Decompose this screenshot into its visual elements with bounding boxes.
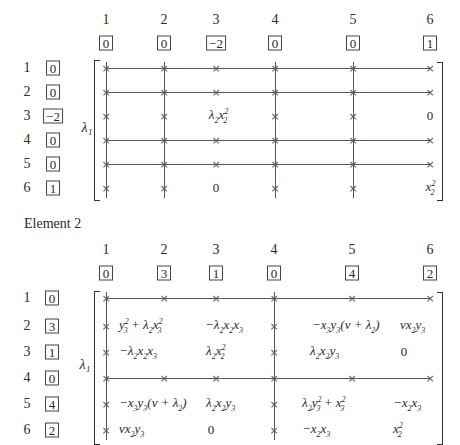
- m1-col-box-1: 0: [99, 36, 113, 51]
- m2-row-label-3: 3: [24, 344, 31, 360]
- m2-entry-r2c6: vx2y3: [400, 317, 425, 335]
- m2-hline-row-4: [106, 378, 430, 379]
- m1-cross-marker-icon: ×: [348, 183, 357, 194]
- m1-col-label-4: 4: [272, 12, 279, 28]
- m1-col-label-3: 3: [213, 12, 220, 28]
- m1-col-label-1: 1: [103, 12, 110, 28]
- m2-col-box-4: 0: [267, 266, 281, 281]
- m2-entry-r6c2: vx2y3: [119, 421, 144, 439]
- m2-cross-marker-icon: ×: [101, 425, 110, 436]
- m1-cross-marker-icon: ×: [348, 111, 357, 122]
- m2-col-label-2: 2: [161, 242, 168, 258]
- m1-row-box-1: 0: [46, 61, 60, 76]
- m2-cross-marker-icon: ×: [269, 321, 278, 332]
- m2-entry-r3c5: λ2x2y3: [310, 343, 339, 361]
- m2-col-label-4: 4: [271, 242, 278, 258]
- m1-left-bracket: [94, 60, 100, 201]
- m1-row-label-1: 1: [24, 60, 31, 76]
- m1-cross-marker-icon: ×: [159, 135, 168, 146]
- m1-cross-marker-icon: ×: [425, 135, 434, 146]
- m1-col-label-2: 2: [161, 12, 168, 28]
- m1-cross-marker-icon: ×: [101, 87, 110, 98]
- m1-col-box-3: −2: [206, 36, 226, 51]
- m1-cross-marker-icon: ×: [425, 63, 434, 74]
- m1-row-box-3: −2: [43, 109, 63, 124]
- m1-row-box-6: 1: [46, 181, 60, 196]
- m1-entry-r3c3: λ2x22: [209, 107, 227, 125]
- m2-col-box-5: 4: [345, 266, 359, 281]
- m1-cross-marker-icon: ×: [101, 111, 110, 122]
- m1-cross-marker-icon: ×: [159, 63, 168, 74]
- m1-vline-col-5: [353, 62, 354, 198]
- m1-hline-row-2: [106, 92, 430, 93]
- m2-cross-marker-icon: ×: [425, 293, 434, 304]
- m2-col-box-6: 2: [423, 266, 437, 281]
- m1-cross-marker-icon: ×: [211, 63, 220, 74]
- m2-entry-r5c2: −x3y3(v + λ2): [119, 395, 187, 413]
- m2-entry-r5c3: λ2x2y3: [206, 395, 235, 413]
- m1-row-label-6: 6: [24, 180, 31, 196]
- m1-col-box-5: 0: [346, 36, 360, 51]
- m2-cross-marker-icon: ×: [211, 293, 220, 304]
- m2-col-label-5: 5: [349, 242, 356, 258]
- m2-entry-r5c5: λ2y23 + x23: [302, 395, 344, 413]
- m2-cross-marker-icon: ×: [347, 373, 356, 384]
- m1-cross-marker-icon: ×: [348, 135, 357, 146]
- m1-cross-marker-icon: ×: [425, 87, 434, 98]
- m2-entry-r6c6: x22: [393, 421, 402, 439]
- m2-col-box-1: 0: [99, 266, 113, 281]
- m2-entry-r3c2: −λ2x2x3: [119, 343, 157, 361]
- m1-cross-marker-icon: ×: [159, 87, 168, 98]
- m1-row-box-4: 0: [46, 133, 60, 148]
- m1-cross-marker-icon: ×: [101, 159, 110, 170]
- m1-cross-marker-icon: ×: [211, 159, 220, 170]
- m2-entry-r6c3: 0: [208, 422, 215, 438]
- m1-row-label-4: 4: [24, 132, 31, 148]
- m2-right-bracket: [437, 292, 443, 445]
- m1-cross-marker-icon: ×: [159, 111, 168, 122]
- m2-vline-col-1: [106, 292, 107, 440]
- m1-cross-marker-icon: ×: [270, 135, 279, 146]
- m2-row-label-4: 4: [24, 370, 31, 386]
- m1-cross-marker-icon: ×: [211, 87, 220, 98]
- m2-col-label-3: 3: [213, 242, 220, 258]
- m2-prefactor-lambda1: λ₁: [80, 357, 91, 373]
- m1-col-box-4: 0: [268, 36, 282, 51]
- m2-cross-marker-icon: ×: [101, 321, 110, 332]
- m2-entry-r6c5: −x2x3: [302, 421, 330, 439]
- m2-cross-marker-icon: ×: [269, 373, 278, 384]
- m2-cross-marker-icon: ×: [269, 347, 278, 358]
- m2-col-box-2: 3: [157, 266, 171, 281]
- m1-cross-marker-icon: ×: [211, 135, 220, 146]
- m1-cross-marker-icon: ×: [159, 183, 168, 194]
- m2-entry-r3c6: 0: [401, 344, 408, 360]
- m1-cross-marker-icon: ×: [348, 159, 357, 170]
- m2-left-bracket: [94, 291, 100, 445]
- m1-vline-col-4: [275, 62, 276, 198]
- m1-row-label-3: 3: [24, 108, 31, 124]
- m1-right-bracket: [437, 62, 443, 201]
- m2-vline-col-4: [274, 292, 275, 440]
- m1-col-label-5: 5: [350, 12, 357, 28]
- m2-cross-marker-icon: ×: [269, 399, 278, 410]
- m2-row-box-1: 0: [45, 291, 59, 306]
- m1-cross-marker-icon: ×: [270, 111, 279, 122]
- m2-entry-r2c3: −λ2x2x3: [205, 317, 243, 335]
- m2-cross-marker-icon: ×: [159, 293, 168, 304]
- m1-cross-marker-icon: ×: [425, 159, 434, 170]
- m1-cross-marker-icon: ×: [101, 63, 110, 74]
- m1-entry-r6c3: 0: [213, 180, 220, 196]
- m2-row-box-5: 4: [45, 397, 59, 412]
- m1-vline-col-1: [106, 62, 107, 198]
- m1-cross-marker-icon: ×: [270, 183, 279, 194]
- element-2-caption: Element 2: [24, 216, 81, 232]
- m1-col-box-2: 0: [157, 36, 171, 51]
- m1-cross-marker-icon: ×: [270, 159, 279, 170]
- m2-cross-marker-icon: ×: [159, 373, 168, 384]
- m1-row-label-2: 2: [24, 84, 31, 100]
- m2-row-box-6: 2: [45, 423, 59, 438]
- m2-entry-r5c6: −x2x3: [393, 395, 421, 413]
- m1-hline-row-5: [106, 164, 430, 165]
- m1-row-box-5: 0: [46, 157, 60, 172]
- m1-cross-marker-icon: ×: [348, 87, 357, 98]
